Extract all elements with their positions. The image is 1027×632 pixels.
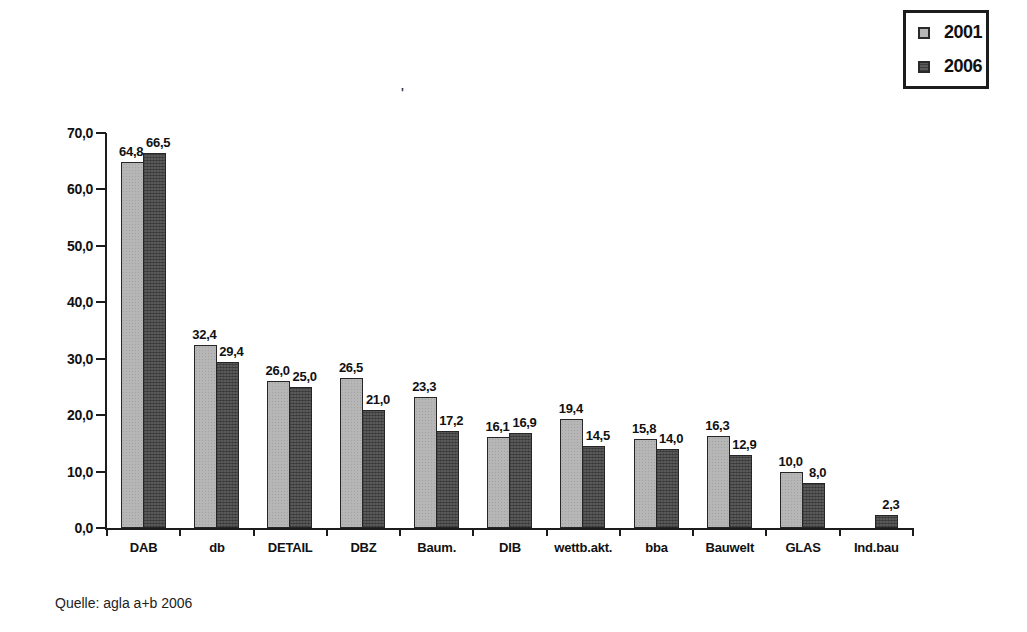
x-axis-category-label: DBZ [350, 540, 376, 555]
x-axis-tick [619, 528, 621, 536]
bar-2006-Ind.bau [875, 515, 898, 528]
bar-2006-bba [656, 449, 679, 528]
value-label-2001-Bauwelt: 16,3 [705, 418, 729, 433]
y-axis-label: 20,0 [41, 407, 93, 423]
value-label-2006-Ind.bau: 2,3 [882, 497, 899, 512]
value-label-2006-db: 29,4 [219, 344, 243, 359]
value-label-2006-wettb.akt.: 14,5 [586, 428, 610, 443]
y-axis-tick [96, 414, 106, 416]
bar-2001-wettb.akt. [560, 419, 583, 528]
y-axis-tick [96, 245, 106, 247]
x-axis-category-label: DAB [130, 540, 158, 555]
value-label-2001-DBZ: 26,5 [339, 360, 363, 375]
chart-page: 2001 2006 ' 0,010,020,030,040,050,060,07… [0, 0, 1027, 632]
value-label-2006-GLAS: 8,0 [809, 465, 826, 480]
y-axis-tick [96, 358, 106, 360]
bar-2001-GLAS [780, 472, 803, 528]
value-label-2001-wettb.akt.: 19,4 [559, 401, 583, 416]
value-label-2006-DIB: 16,9 [512, 415, 536, 430]
stray-ink-mark: ' [401, 86, 404, 100]
x-axis-tick [912, 528, 914, 536]
legend-swatch-2006-icon [918, 61, 930, 73]
legend-label-2006: 2006 [944, 56, 982, 77]
y-axis-label: 30,0 [41, 351, 93, 367]
bar-2001-DETAIL [267, 381, 290, 528]
legend-label-2001: 2001 [944, 22, 982, 43]
value-label-2001-bba: 15,8 [632, 421, 656, 436]
value-label-2001-DAB: 64,8 [119, 144, 143, 159]
x-axis-category-label: db [209, 540, 224, 555]
x-axis-tick [253, 528, 255, 536]
bar-2001-Baum. [414, 397, 437, 528]
y-axis-label: 70,0 [41, 125, 93, 141]
legend-item-2006: 2006 [918, 56, 976, 77]
y-axis-label: 10,0 [41, 464, 93, 480]
value-label-2001-GLAS: 10,0 [779, 454, 803, 469]
bar-2001-DAB [121, 162, 144, 528]
x-axis-tick [399, 528, 401, 536]
x-axis-tick [546, 528, 548, 536]
value-label-2006-DBZ: 21,0 [366, 392, 390, 407]
x-axis-tick [472, 528, 474, 536]
bar-2006-DAB [143, 153, 166, 528]
value-label-2001-Baum.: 23,3 [412, 379, 436, 394]
x-axis-tick [839, 528, 841, 536]
x-axis-category-label: Baum. [417, 540, 456, 555]
y-axis-label: 50,0 [41, 238, 93, 254]
x-axis-category-label: Ind.bau [854, 540, 899, 555]
bar-2006-db [216, 362, 239, 528]
legend: 2001 2006 [903, 10, 989, 89]
x-axis-category-label: wettb.akt. [554, 540, 612, 555]
y-axis-label: 40,0 [41, 294, 93, 310]
bar-2006-Bauwelt [729, 455, 752, 528]
bar-2006-DIB [509, 433, 532, 528]
legend-swatch-2001-icon [918, 27, 930, 39]
value-label-2006-Bauwelt: 12,9 [732, 437, 756, 452]
value-label-2006-DETAIL: 25,0 [293, 369, 317, 384]
y-axis-tick [96, 132, 106, 134]
y-axis-label: 60,0 [41, 181, 93, 197]
bar-2001-DIB [487, 437, 510, 528]
value-label-2006-bba: 14,0 [659, 431, 683, 446]
y-axis-tick [96, 527, 106, 529]
bar-2001-DBZ [340, 378, 363, 528]
x-axis-tick [179, 528, 181, 536]
bar-2006-DBZ [362, 410, 385, 529]
x-axis-category-label: bba [645, 540, 668, 555]
y-axis-tick [96, 188, 106, 190]
bar-2001-db [194, 345, 217, 528]
y-axis-tick [96, 471, 106, 473]
x-axis-tick [692, 528, 694, 536]
x-axis-category-label: GLAS [785, 540, 820, 555]
value-label-2001-db: 32,4 [192, 327, 216, 342]
source-note: Quelle: agla a+b 2006 [55, 595, 192, 611]
y-axis-tick [96, 301, 106, 303]
value-label-2006-DAB: 66,5 [146, 135, 170, 150]
bar-2006-GLAS [802, 483, 825, 528]
x-axis-tick [326, 528, 328, 536]
y-axis-label: 0,0 [41, 520, 93, 536]
bar-2001-Bauwelt [707, 436, 730, 528]
x-axis-category-label: DETAIL [268, 540, 313, 555]
bar-2001-bba [634, 439, 657, 528]
bar-2006-wettb.akt. [582, 446, 605, 528]
x-axis-category-label: Bauwelt [706, 540, 754, 555]
value-label-2001-DETAIL: 26,0 [266, 363, 290, 378]
legend-item-2001: 2001 [918, 22, 976, 43]
x-axis-tick [106, 528, 108, 536]
bar-2006-DETAIL [289, 387, 312, 528]
value-label-2001-DIB: 16,1 [485, 419, 509, 434]
value-label-2006-Baum.: 17,2 [439, 413, 463, 428]
bar-2006-Baum. [436, 431, 459, 528]
x-axis-tick [765, 528, 767, 536]
bar-chart-plot-area: 0,010,020,030,040,050,060,070,0DAB64,866… [105, 133, 913, 530]
x-axis-category-label: DIB [499, 540, 521, 555]
